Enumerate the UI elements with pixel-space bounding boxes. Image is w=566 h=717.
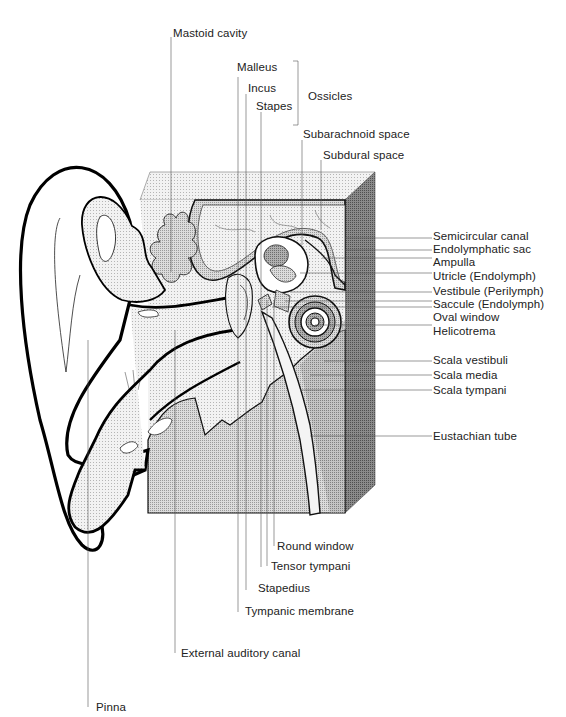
label-scala-vestibuli: Scala vestibuli — [433, 354, 508, 367]
label-tympanic-membrane: Tympanic membrane — [245, 605, 354, 618]
label-round-window: Round window — [277, 540, 354, 553]
label-ampulla: Ampulla — [433, 256, 475, 269]
label-scala-media: Scala media — [433, 369, 497, 382]
label-subarachnoid-space: Subarachnoid space — [303, 128, 410, 141]
antihelix — [97, 215, 116, 261]
block-side-face — [345, 172, 375, 513]
label-stapedius: Stapedius — [258, 582, 310, 595]
label-tensor-tympani: Tensor tympani — [271, 560, 350, 573]
label-helicotrema: Helicotrema — [433, 325, 495, 338]
label-semicircular-canal: Semicircular canal — [433, 230, 529, 243]
label-oval-window: Oval window — [433, 311, 499, 324]
label-eustachian-tube: Eustachian tube — [433, 430, 517, 443]
label-ossicles: Ossicles — [308, 90, 352, 103]
label-utricle: Utricle (Endolymph) — [433, 270, 536, 283]
block-top-face — [140, 172, 375, 200]
label-mastoid-cavity: Mastoid cavity — [173, 27, 247, 40]
label-subdural-space: Subdural space — [323, 149, 404, 162]
label-pinna: Pinna — [96, 701, 126, 714]
label-external-auditory-canal: External auditory canal — [181, 647, 300, 660]
label-stapes: Stapes — [256, 100, 292, 113]
label-endolymphatic-sac: Endolymphatic sac — [433, 243, 531, 256]
label-incus: Incus — [248, 82, 276, 95]
label-vestibule: Vestibule (Perilymph) — [433, 285, 544, 298]
label-scala-tympani: Scala tympani — [433, 384, 507, 397]
label-saccule: Saccule (Endolymph) — [433, 298, 544, 311]
label-malleus: Malleus — [237, 61, 277, 74]
